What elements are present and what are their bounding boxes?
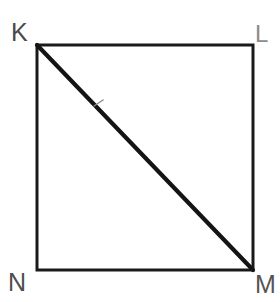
geometry-figure: K L M N — [0, 0, 280, 302]
vertex-label-L: L — [255, 22, 268, 46]
vertex-label-N: N — [8, 270, 26, 295]
geometry-canvas — [0, 0, 280, 302]
vertex-label-K: K — [11, 20, 28, 45]
vertex-label-M: M — [255, 272, 276, 297]
